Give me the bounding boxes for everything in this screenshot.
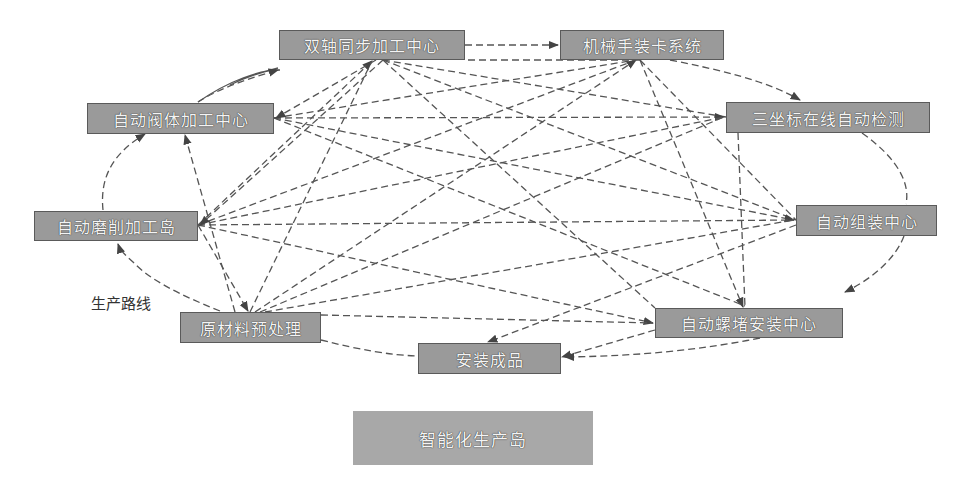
node-valve-body-machining-center: 自动阀体加工中心: [87, 103, 274, 134]
node-robot-clamping-system: 机械手装卡系统: [560, 30, 724, 60]
node-plug-installation-center: 自动螺堵安装中心: [655, 308, 843, 338]
smart-production-island-legend: 智能化生产岛: [353, 411, 593, 465]
node-cmm-online-inspection: 三坐标在线自动检测: [726, 102, 930, 133]
node-auto-assembly-center: 自动组装中心: [796, 205, 937, 236]
node-auto-grinding-island: 自动磨削加工岛: [34, 211, 198, 241]
node-dual-axis-machining-center: 双轴同步加工中心: [279, 30, 465, 60]
production-island-diagram: 双轴同步加工中心 机械手装卡系统 三坐标在线自动检测 自动组装中心 自动螺堵安装…: [0, 0, 957, 491]
production-route-label: 生产路线: [91, 292, 151, 313]
node-finished-product: 安装成品: [418, 343, 561, 374]
node-raw-material-pretreatment: 原材料预处理: [180, 312, 321, 343]
